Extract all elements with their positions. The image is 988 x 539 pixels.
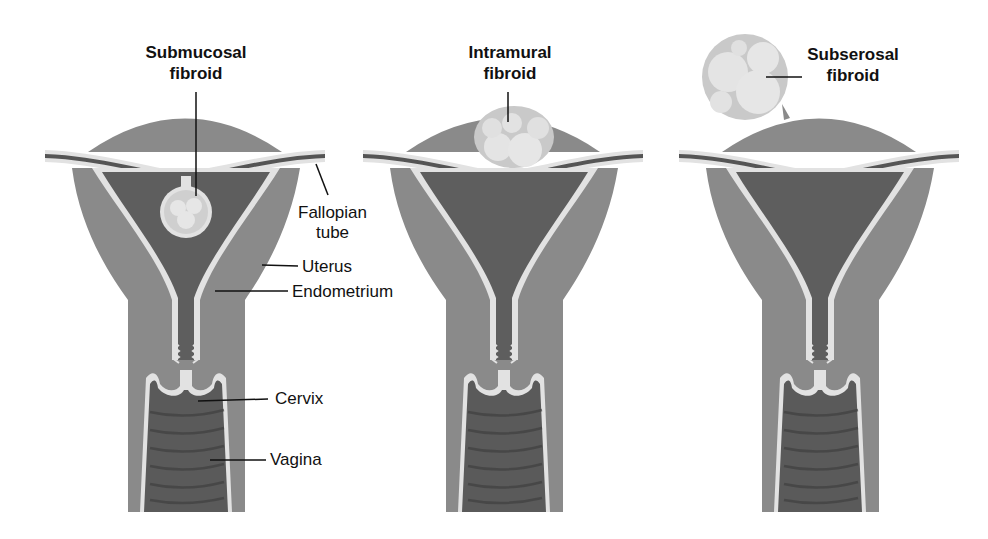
cervix-label: Cervix: [275, 389, 323, 409]
submucosal-fibroid-title: Submucosal fibroid: [126, 42, 266, 84]
intramural-fibroid-title: Intramural fibroid: [440, 42, 580, 84]
vagina-label: Vagina: [270, 450, 322, 470]
panel-intramural: Intramural fibroid: [318, 0, 648, 539]
panel-subserosal: Subserosal fibroid: [634, 0, 964, 539]
subserosal-fibroid-title: Subserosal fibroid: [798, 44, 908, 86]
